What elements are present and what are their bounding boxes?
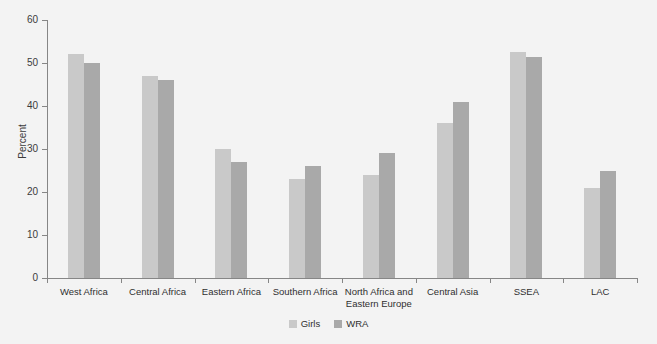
bar-wra [158, 80, 174, 278]
bar-girls [437, 123, 453, 278]
legend-swatch-icon [334, 320, 342, 328]
x-axis-category-label: West Africa [47, 286, 121, 298]
legend-label: Girls [301, 318, 321, 330]
x-axis-tick-mark [416, 278, 417, 283]
bar-girls [289, 179, 305, 278]
bar-group [68, 20, 100, 278]
x-axis-tick-mark [490, 278, 491, 283]
bar-group [142, 20, 174, 278]
bar-group [437, 20, 469, 278]
legend-label: WRA [346, 318, 368, 330]
bar-girls [142, 76, 158, 278]
plot-area [47, 20, 637, 278]
y-axis-tick-label: 30 [27, 142, 38, 155]
x-axis-category-label: SSEA [490, 286, 564, 298]
x-axis-tick-mark [637, 278, 638, 283]
bar-wra [231, 162, 247, 278]
bar-girls [363, 175, 379, 278]
y-axis-tick-label: 10 [27, 228, 38, 241]
x-axis-category-label: North Africa and Eastern Europe [342, 286, 416, 310]
y-axis-tick: 10 [0, 235, 47, 236]
bar-group [510, 20, 542, 278]
y-axis-tick-label: 40 [27, 99, 38, 112]
x-axis-tick-mark [121, 278, 122, 283]
x-axis-tick-mark [47, 278, 48, 283]
bar-wra [600, 171, 616, 279]
bar-wra [453, 102, 469, 278]
y-axis-tick-label: 50 [27, 56, 38, 69]
legend-swatch-icon [289, 320, 297, 328]
bar-chart-figure: Percent 0102030405060 West AfricaCentral… [0, 0, 657, 344]
bar-group [289, 20, 321, 278]
legend-item: WRA [334, 318, 368, 330]
x-axis-category-label: Central Africa [121, 286, 195, 298]
chart-legend: GirlsWRA [0, 318, 657, 330]
bar-wra [526, 57, 542, 278]
bar-girls [215, 149, 231, 278]
y-axis-tick-label: 60 [27, 13, 38, 26]
bar-wra [84, 63, 100, 278]
y-axis-tick: 30 [0, 149, 47, 150]
x-axis-tick-mark [195, 278, 196, 283]
x-axis-category-label: Southern Africa [268, 286, 342, 298]
x-axis-category-label: Central Asia [416, 286, 490, 298]
x-axis-tick-mark [268, 278, 269, 283]
bar-girls [68, 54, 84, 278]
y-axis-tick: 60 [0, 20, 47, 21]
y-axis-tick: 0 [0, 278, 47, 279]
y-axis-tick: 20 [0, 192, 47, 193]
y-axis-tick: 40 [0, 106, 47, 107]
y-axis-tick-label: 0 [32, 271, 38, 284]
bar-girls [510, 52, 526, 278]
bar-wra [379, 153, 395, 278]
bar-wra [305, 166, 321, 278]
bar-group [215, 20, 247, 278]
legend-item: Girls [289, 318, 321, 330]
bar-group [363, 20, 395, 278]
y-axis-title: Percent [17, 102, 28, 182]
y-axis-tick-label: 20 [27, 185, 38, 198]
bar-group [584, 20, 616, 278]
x-axis-tick-mark [342, 278, 343, 283]
x-axis-category-label: LAC [563, 286, 637, 298]
y-axis-tick: 50 [0, 63, 47, 64]
x-axis-tick-mark [563, 278, 564, 283]
bar-girls [584, 188, 600, 278]
x-axis-category-label: Eastern Africa [195, 286, 269, 298]
